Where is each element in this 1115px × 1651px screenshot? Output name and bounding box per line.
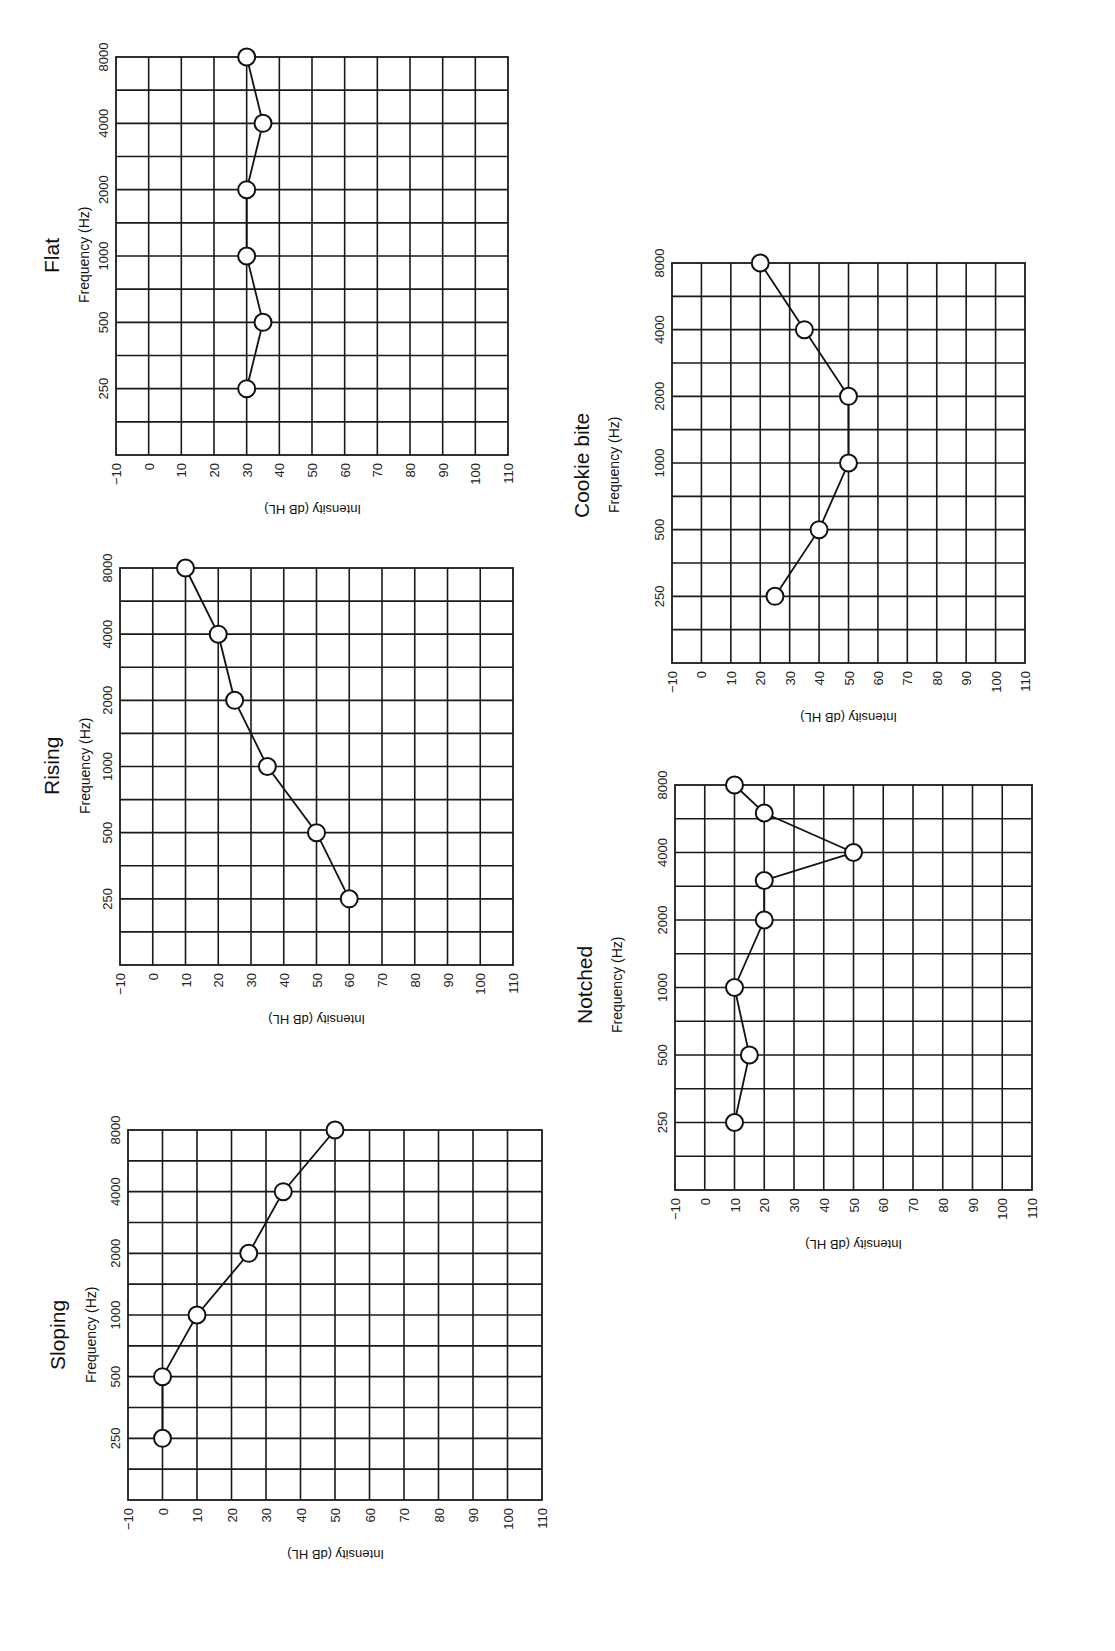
frequency-tick-label: 8000 — [655, 771, 670, 800]
intensity-tick-label: 100 — [995, 1198, 1010, 1220]
intensity-tick-label: −10 — [668, 1198, 683, 1220]
threshold-marker — [756, 872, 773, 889]
intensity-tick-label: 60 — [876, 1198, 891, 1212]
frequency-tick-label: 1000 — [655, 973, 670, 1002]
intensity-tick-label: 40 — [817, 1198, 832, 1212]
intensity-tick-label: 10 — [728, 1198, 743, 1212]
frequency-tick-label: 500 — [655, 1044, 670, 1066]
threshold-marker — [726, 1114, 743, 1131]
intensity-tick-label: 20 — [757, 1198, 772, 1212]
frequency-tick-label: 2000 — [655, 906, 670, 935]
threshold-marker — [741, 1047, 758, 1064]
audiogram-plot: 2505001000200040008000−10010203040506070… — [0, 0, 1115, 1651]
intensity-tick-label: 90 — [966, 1198, 981, 1212]
intensity-tick-label: 0 — [698, 1198, 713, 1205]
intensity-tick-label: 30 — [787, 1198, 802, 1212]
threshold-marker — [726, 979, 743, 996]
intensity-tick-label: 70 — [906, 1198, 921, 1212]
threshold-marker — [726, 777, 743, 794]
threshold-marker — [756, 805, 773, 822]
frequency-tick-label: 4000 — [655, 838, 670, 867]
threshold-marker — [756, 912, 773, 929]
intensity-tick-label: 80 — [936, 1198, 951, 1212]
intensity-tick-label: 50 — [847, 1198, 862, 1212]
frequency-tick-label: 250 — [655, 1112, 670, 1134]
threshold-marker — [845, 844, 862, 861]
intensity-tick-label: 110 — [1025, 1198, 1040, 1219]
